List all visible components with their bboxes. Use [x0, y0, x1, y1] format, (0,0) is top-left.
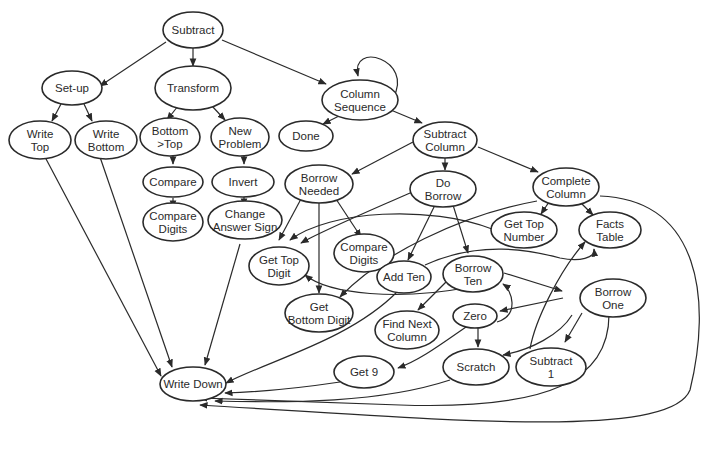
node-label: Borrow: [455, 262, 492, 274]
node-label: Borrow: [301, 172, 338, 184]
node-label: Add Ten: [383, 271, 425, 283]
edge-get-9-write-down: [225, 382, 340, 393]
node-label: Write: [93, 128, 120, 140]
edge-zero-borrow-ten: [497, 284, 512, 322]
node-label: Digit: [267, 267, 291, 279]
node-label: Subtract: [530, 355, 574, 367]
node-label: Get: [310, 301, 329, 313]
node-label: 1: [548, 368, 554, 380]
node-label: Change: [225, 208, 265, 220]
node-label: Set-up: [55, 82, 89, 94]
edge-subtract-1-facts-table: [530, 242, 585, 349]
node-label: Answer Sign: [213, 221, 278, 233]
edge-transform-new-problem: [212, 106, 225, 120]
node-label: Done: [292, 130, 320, 142]
node-label: Complete: [541, 175, 590, 187]
node-zero: Zero: [453, 304, 497, 328]
node-get-9: Get 9: [334, 356, 394, 388]
edge-complete-column-get-top-number: [541, 202, 549, 214]
node-label: One: [602, 299, 624, 311]
edge-setup-write-top: [52, 104, 61, 121]
node-label: Number: [504, 231, 545, 243]
nodes: SubtractSet-upTransformColumnSequenceWri…: [9, 12, 646, 401]
node-write-bottom: WriteBottom: [75, 121, 137, 159]
node-label: Find Next: [382, 318, 432, 330]
node-label: Transform: [167, 82, 219, 94]
node-label: Digits: [159, 223, 188, 235]
node-label: Column: [340, 88, 380, 100]
node-get-top-digit: Get TopDigit: [249, 247, 309, 285]
node-add-ten: Add Ten: [377, 261, 431, 293]
node-bottom-gt-top: Bottom>Top: [140, 118, 200, 156]
node-label: Digits: [350, 254, 379, 266]
node-label: Get Top: [259, 254, 299, 266]
edge-get-top-number-get-top-digit: [290, 214, 492, 240]
node-transform: Transform: [155, 66, 231, 110]
node-label: Top: [31, 141, 50, 153]
node-label: Compare: [149, 210, 196, 222]
node-setup: Set-up: [42, 71, 102, 105]
node-facts-table: FactsTable: [579, 212, 641, 248]
node-label: Scratch: [457, 361, 496, 373]
node-get-top-number: Get TopNumber: [491, 212, 557, 248]
node-subtract-1: Subtract1: [516, 348, 586, 386]
node-label: Column: [387, 331, 427, 343]
node-label: Table: [596, 231, 624, 243]
node-subtract-column: SubtractColumn: [413, 122, 477, 158]
edge-borrow-one-zero: [500, 298, 563, 311]
node-label: Subtract: [172, 24, 216, 36]
edge-setup-write-bottom: [84, 104, 92, 121]
node-label: Ten: [464, 275, 483, 287]
node-label: Bottom Digit: [288, 314, 351, 326]
node-borrow-one: BorrowOne: [580, 279, 646, 317]
edge-do-borrow-borrow-ten: [453, 205, 468, 253]
node-write-top: WriteTop: [9, 121, 71, 159]
edge-subtract-setup: [100, 42, 166, 86]
node-label: Write Down: [163, 378, 222, 390]
node-invert: Invert: [212, 167, 274, 197]
node-change-answer-sign: ChangeAnswer Sign: [208, 201, 282, 239]
node-label: Column: [546, 188, 586, 200]
node-label: Needed: [299, 185, 339, 197]
node-scratch: Scratch: [443, 349, 509, 385]
node-label: >Top: [157, 138, 182, 150]
node-label: New: [228, 125, 252, 137]
node-label: Sequence: [334, 101, 386, 113]
edge-do-borrow-add-ten: [408, 205, 435, 260]
node-label: Borrow: [425, 190, 462, 202]
node-label: Column: [425, 141, 465, 153]
node-label: Write: [27, 128, 54, 140]
node-label: Problem: [219, 138, 262, 150]
node-label: Bottom: [152, 125, 188, 137]
node-new-problem: NewProblem: [211, 118, 269, 156]
node-borrow-needed: BorrowNeeded: [285, 165, 353, 203]
node-complete-column: CompleteColumn: [533, 168, 599, 206]
node-write-down: Write Down: [160, 367, 226, 401]
edge-borrow-one-subtract-1: [565, 313, 582, 342]
edge-subtract-column-sequence: [222, 40, 326, 84]
node-compare: Compare: [143, 167, 203, 197]
node-label: Borrow: [595, 286, 632, 298]
node-label: Zero: [463, 310, 487, 322]
edge-write-top-write-down: [45, 157, 161, 376]
node-label: Compare: [340, 241, 387, 253]
node-label: Facts: [596, 218, 624, 230]
node-column-sequence: ColumnSequence: [322, 80, 398, 120]
edge-change-answer-sign-write-down: [205, 244, 240, 365]
node-label: Subtract: [424, 128, 468, 140]
node-borrow-ten: BorrowTen: [443, 256, 503, 292]
node-label: Do: [436, 177, 451, 189]
node-label: Get Top: [504, 218, 544, 230]
node-compare-digits-1: CompareDigits: [143, 203, 203, 241]
node-label: Compare: [149, 176, 196, 188]
node-label: Bottom: [88, 141, 124, 153]
subtraction-procedure-graph: SubtractSet-upTransformColumnSequenceWri…: [0, 0, 705, 456]
edge-subtract-column-complete-column: [478, 147, 538, 172]
node-label: Get 9: [350, 366, 378, 378]
node-label: Invert: [229, 176, 259, 188]
node-done: Done: [279, 121, 333, 151]
node-find-next-column: Find NextColumn: [375, 311, 439, 349]
node-do-borrow: DoBorrow: [410, 171, 476, 207]
node-get-bottom-digit: GetBottom Digit: [285, 294, 353, 332]
node-subtract: Subtract: [163, 12, 223, 48]
